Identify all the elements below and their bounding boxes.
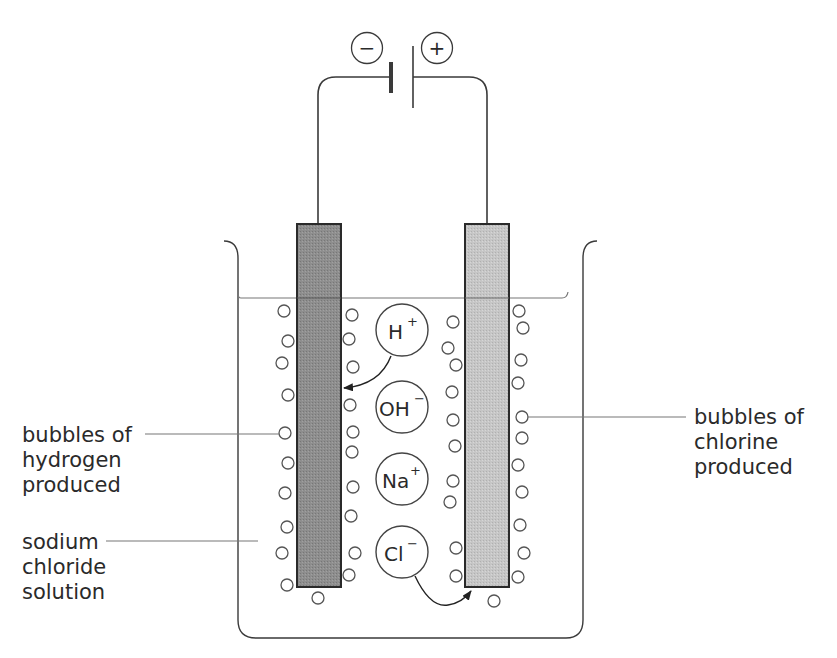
- svg-text:chloride: chloride: [22, 555, 106, 579]
- wire-left: [318, 77, 391, 224]
- positive-terminal-symbol: +: [429, 36, 446, 60]
- beaker: [224, 241, 597, 638]
- cl-minus-to-anode-arrow: [415, 576, 471, 605]
- svg-text:−: −: [407, 536, 418, 551]
- svg-text:bubbles of: bubbles of: [22, 423, 133, 447]
- svg-text:sodium: sodium: [22, 530, 99, 554]
- negative-terminal-symbol: −: [359, 36, 376, 60]
- svg-text:solution: solution: [22, 580, 105, 604]
- svg-text:−: −: [414, 391, 425, 406]
- wire-right: [413, 77, 487, 224]
- svg-text:Cl: Cl: [384, 542, 404, 566]
- svg-text:+: +: [410, 463, 421, 478]
- svg-text:OH: OH: [379, 397, 410, 421]
- label-sodium-chloride-solution: sodium chloride solution: [22, 530, 106, 604]
- svg-text:+: +: [407, 314, 418, 329]
- ion-h-plus: H +: [376, 304, 428, 356]
- svg-text:produced: produced: [22, 473, 121, 497]
- label-chlorine-bubbles: bubbles of chlorine produced: [694, 405, 805, 479]
- ion-oh-minus: OH −: [376, 381, 428, 433]
- electrolysis-diagram: − + H + OH −: [0, 0, 837, 658]
- battery-circuit: [318, 33, 487, 225]
- label-hydrogen-bubbles: bubbles of hydrogen produced: [22, 423, 133, 497]
- ion-cl-minus: Cl −: [376, 526, 428, 578]
- svg-text:hydrogen: hydrogen: [22, 448, 122, 472]
- svg-text:bubbles of: bubbles of: [694, 405, 805, 429]
- svg-text:chlorine: chlorine: [694, 430, 778, 454]
- cathode-electrode: [297, 224, 341, 587]
- svg-text:Na: Na: [382, 469, 409, 493]
- ion-na-plus: Na +: [376, 453, 428, 505]
- anode-electrode: [465, 224, 509, 587]
- solution-surface: [241, 292, 568, 298]
- svg-text:produced: produced: [694, 455, 793, 479]
- svg-text:H: H: [388, 320, 403, 344]
